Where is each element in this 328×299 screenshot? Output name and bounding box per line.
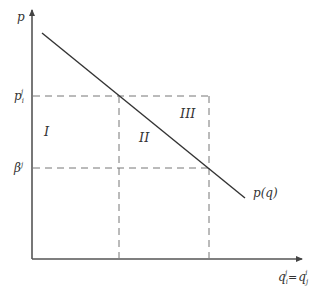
tick-label-p-ij: pij <box>14 88 24 105</box>
x-axis-label: qij=qji <box>278 269 309 286</box>
region-label-iii: III <box>179 106 196 121</box>
curve-label: p(q) <box>253 186 278 200</box>
y-axis-label: p <box>17 10 25 24</box>
diagram-canvas: p pij βj I II III p(q) qij=qji <box>0 0 328 299</box>
tick-label-beta-j: βj <box>13 161 24 175</box>
region-label-ii: II <box>138 130 150 145</box>
demand-curve <box>42 33 245 198</box>
region-label-i: I <box>43 124 50 139</box>
